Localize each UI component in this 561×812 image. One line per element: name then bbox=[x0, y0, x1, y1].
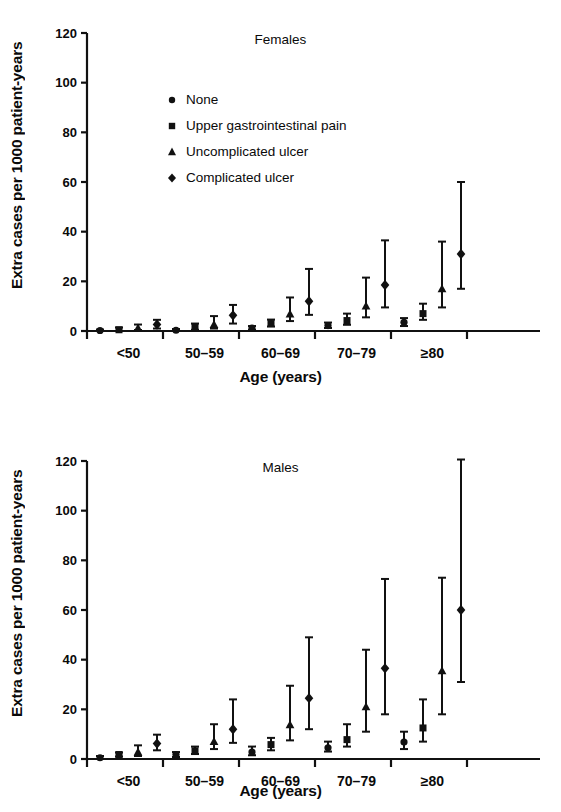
data-point-square bbox=[192, 324, 199, 331]
males-plot-group: 020406080100120<5050–5960–6970–79≥80 bbox=[55, 454, 540, 789]
data-point-square bbox=[344, 736, 351, 743]
data-point-group bbox=[419, 699, 427, 741]
data-point-group bbox=[267, 320, 275, 327]
x-axis-label-males: Age (years) bbox=[0, 782, 561, 800]
data-point-group bbox=[457, 460, 466, 683]
data-point-group bbox=[305, 637, 314, 729]
x-axis-label-females: Age (years) bbox=[0, 368, 561, 386]
x-tick-label: 70–79 bbox=[337, 345, 376, 361]
data-point-group bbox=[457, 182, 466, 289]
plot-area-females: 020406080100120<5050–5960–6970–79≥80None… bbox=[0, 0, 561, 400]
data-point-triangle bbox=[362, 302, 371, 310]
data-point-group bbox=[115, 326, 123, 333]
y-tick-label: 40 bbox=[63, 224, 77, 239]
data-point-group bbox=[286, 686, 295, 741]
data-point-group bbox=[229, 699, 238, 742]
data-point-group bbox=[362, 278, 371, 318]
x-tick-label: 50–59 bbox=[185, 345, 224, 361]
data-point-square bbox=[420, 310, 427, 317]
data-point-group bbox=[343, 724, 351, 746]
data-point-circle bbox=[172, 327, 179, 334]
data-point-circle bbox=[248, 748, 255, 755]
y-tick-label: 100 bbox=[55, 503, 77, 518]
legend-marker-square bbox=[169, 123, 175, 129]
data-point-circle bbox=[324, 322, 331, 329]
data-point-group bbox=[419, 304, 427, 320]
data-point-triangle bbox=[362, 702, 371, 710]
data-point-group bbox=[172, 327, 180, 334]
data-point-group bbox=[191, 747, 199, 755]
x-tick-label: 60–69 bbox=[261, 345, 300, 361]
data-point-diamond bbox=[229, 310, 238, 320]
data-point-group bbox=[210, 316, 219, 328]
legend-label: Upper gastrointestinal pain bbox=[186, 118, 347, 133]
data-point-group bbox=[267, 738, 275, 750]
data-point-circle bbox=[96, 327, 103, 334]
data-point-circle bbox=[400, 319, 407, 326]
data-point-diamond bbox=[305, 296, 314, 306]
y-tick-label: 60 bbox=[63, 603, 77, 618]
data-point-diamond bbox=[229, 724, 238, 734]
data-point-group bbox=[381, 579, 390, 714]
data-point-circle bbox=[172, 751, 179, 758]
data-point-square bbox=[192, 747, 199, 754]
y-tick-label: 20 bbox=[63, 274, 77, 289]
legend-item: None bbox=[169, 92, 218, 107]
legend-marker-diamond bbox=[168, 173, 176, 182]
data-point-square bbox=[420, 724, 427, 731]
panel-title-males: Males bbox=[0, 460, 561, 475]
data-point-group bbox=[96, 327, 104, 334]
y-tick-label: 80 bbox=[63, 125, 77, 140]
data-point-triangle bbox=[210, 320, 219, 328]
data-point-group bbox=[438, 578, 447, 715]
data-point-circle bbox=[324, 744, 331, 751]
panel-title-females: Females bbox=[0, 32, 561, 47]
y-tick-label: 40 bbox=[63, 652, 77, 667]
chart-panel-males: Extra cases per 1000 patient-years 02040… bbox=[0, 400, 561, 812]
data-point-group bbox=[362, 650, 371, 732]
data-point-diamond bbox=[457, 605, 466, 615]
figure-container: Extra cases per 1000 patient-years 02040… bbox=[0, 0, 561, 812]
data-point-group bbox=[229, 305, 238, 324]
data-point-group bbox=[115, 751, 123, 758]
data-point-circle bbox=[248, 324, 255, 331]
data-point-group bbox=[324, 742, 332, 752]
data-point-group bbox=[400, 318, 408, 326]
data-point-circle bbox=[400, 739, 407, 746]
data-point-group bbox=[438, 242, 447, 308]
x-tick-label: ≥80 bbox=[421, 345, 444, 361]
data-point-triangle bbox=[438, 284, 447, 292]
y-tick-label: 0 bbox=[70, 752, 77, 767]
data-point-group bbox=[134, 323, 143, 331]
data-point-group bbox=[400, 732, 408, 749]
y-tick-label: 80 bbox=[63, 553, 77, 568]
data-point-group bbox=[96, 754, 104, 761]
data-point-diamond bbox=[305, 693, 314, 703]
data-point-group bbox=[172, 751, 180, 758]
y-tick-label: 60 bbox=[63, 175, 77, 190]
y-tick-label: 20 bbox=[63, 702, 77, 717]
data-point-group bbox=[286, 297, 295, 321]
chart-panel-females: Extra cases per 1000 patient-years 02040… bbox=[0, 0, 561, 400]
data-point-group bbox=[134, 745, 143, 756]
data-point-square bbox=[344, 317, 351, 324]
data-point-triangle bbox=[286, 720, 295, 728]
data-point-group bbox=[153, 319, 162, 329]
legend-item: Complicated ulcer bbox=[168, 170, 295, 185]
data-point-square bbox=[116, 751, 123, 758]
x-tick-label: <50 bbox=[117, 345, 141, 361]
data-point-diamond bbox=[381, 280, 390, 290]
data-point-triangle bbox=[286, 310, 295, 318]
legend-marker-circle bbox=[169, 97, 175, 103]
legend-item: Uncomplicated ulcer bbox=[168, 144, 309, 159]
data-point-group bbox=[381, 240, 390, 307]
data-point-group bbox=[191, 324, 199, 331]
data-point-group bbox=[305, 269, 314, 315]
legend-label: Complicated ulcer bbox=[186, 170, 295, 185]
y-tick-label: 100 bbox=[55, 75, 77, 90]
data-point-group bbox=[210, 724, 219, 749]
data-point-square bbox=[116, 326, 123, 333]
data-point-triangle bbox=[210, 737, 219, 745]
data-point-triangle bbox=[134, 747, 143, 755]
legend-label: None bbox=[186, 92, 218, 107]
